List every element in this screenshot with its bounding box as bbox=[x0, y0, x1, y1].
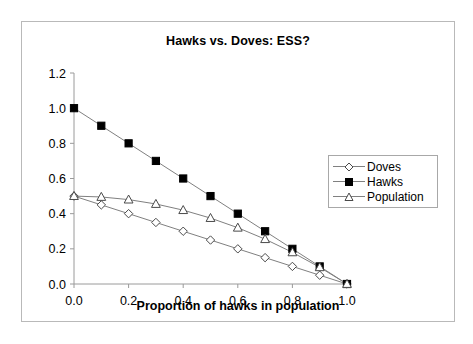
legend-label-doves: Doves bbox=[366, 160, 401, 174]
chart-legend: Doves Hawks Population bbox=[328, 155, 438, 208]
data-point-marker bbox=[206, 236, 214, 244]
data-point-marker bbox=[234, 245, 242, 253]
y-tick-label: 1.2 bbox=[49, 67, 66, 81]
legend-item-hawks[interactable]: Hawks bbox=[332, 174, 433, 189]
open-triangle-icon bbox=[332, 190, 366, 204]
legend-label-hawks: Hawks bbox=[366, 175, 403, 189]
data-point-marker bbox=[316, 271, 324, 279]
data-point-marker bbox=[97, 201, 105, 209]
data-point-marker bbox=[97, 192, 106, 200]
data-point-marker bbox=[261, 235, 270, 243]
data-point-marker bbox=[179, 227, 187, 235]
data-point-marker bbox=[70, 105, 77, 112]
data-point-marker bbox=[180, 175, 187, 182]
y-tick-label: 0.8 bbox=[49, 137, 66, 151]
y-tick-label: 0.4 bbox=[49, 207, 66, 221]
data-point-marker bbox=[288, 262, 296, 270]
data-point-marker bbox=[234, 210, 241, 217]
data-point-marker bbox=[124, 209, 132, 217]
data-point-marker bbox=[207, 192, 214, 199]
chart-frame: Hawks vs. Doves: ESS? 0.00.20.40.60.81.0… bbox=[21, 21, 455, 322]
legend-item-population[interactable]: Population bbox=[332, 189, 433, 204]
data-point-marker bbox=[261, 253, 269, 261]
filled-square-icon bbox=[332, 175, 366, 189]
y-tick-label: 0.2 bbox=[49, 242, 66, 256]
open-diamond-icon bbox=[332, 160, 366, 174]
x-axis-title: Proportion of hawks in population bbox=[22, 299, 454, 313]
data-point-marker bbox=[125, 140, 132, 147]
data-point-marker bbox=[152, 157, 159, 164]
data-point-marker bbox=[98, 122, 105, 129]
y-tick-label: 0.6 bbox=[49, 172, 66, 186]
legend-item-doves[interactable]: Doves bbox=[332, 159, 433, 174]
y-tick-label: 0.0 bbox=[49, 278, 66, 292]
y-tick-label: 1.0 bbox=[49, 102, 66, 116]
data-point-marker bbox=[152, 218, 160, 226]
legend-label-population: Population bbox=[366, 190, 424, 204]
